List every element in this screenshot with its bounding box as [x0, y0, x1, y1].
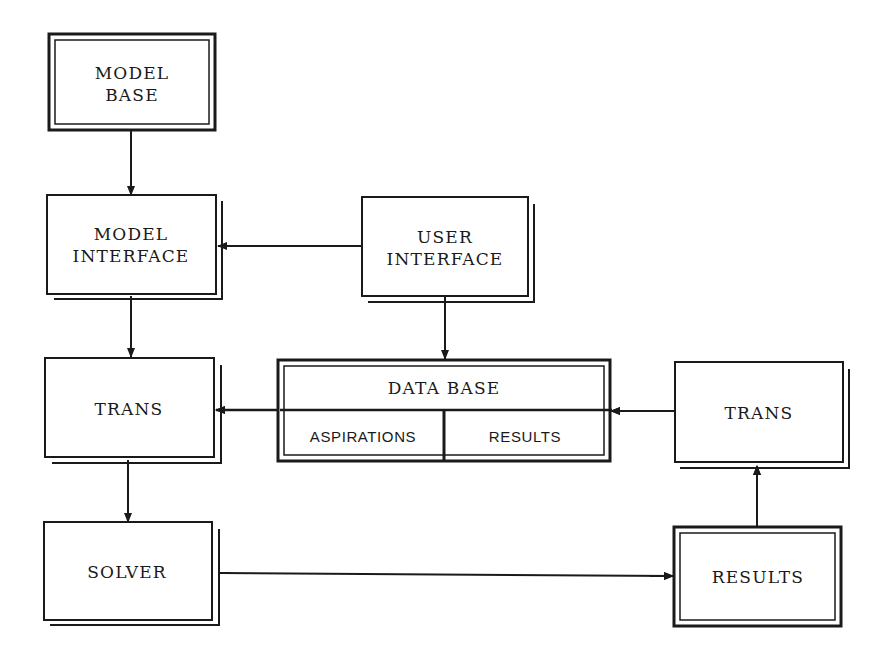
solver-label: SOLVER [87, 562, 167, 582]
user-interface-line1: USER [417, 227, 473, 247]
trans-right-label: TRANS [725, 403, 794, 423]
box-trans-right: TRANS [675, 362, 849, 468]
box-model-interface: MODEL INTERFACE [47, 195, 222, 299]
data-base-results: RESULTS [489, 428, 561, 445]
model-base-line1: MODEL [95, 63, 170, 83]
box-data-base: DATA BASE ASPIRATIONS RESULTS [278, 360, 610, 461]
user-interface-line2: INTERFACE [387, 249, 504, 269]
data-base-title: DATA BASE [388, 378, 501, 398]
model-interface-line2: INTERFACE [73, 246, 190, 266]
model-interface-line1: MODEL [94, 224, 169, 244]
trans-left-label: TRANS [95, 399, 164, 419]
data-base-aspirations: ASPIRATIONS [310, 428, 416, 445]
system-architecture-diagram: MODEL BASE MODEL INTERFACE USER INTERFAC… [0, 0, 892, 661]
box-trans-left: TRANS [45, 358, 221, 463]
box-model-base: MODEL BASE [49, 34, 215, 130]
box-results: RESULTS [674, 527, 841, 626]
box-user-interface: USER INTERFACE [362, 197, 534, 302]
results-label: RESULTS [712, 567, 804, 587]
model-base-line2: BASE [105, 85, 159, 105]
arrow-solver-to-results [220, 573, 673, 576]
box-solver: SOLVER [44, 522, 219, 625]
